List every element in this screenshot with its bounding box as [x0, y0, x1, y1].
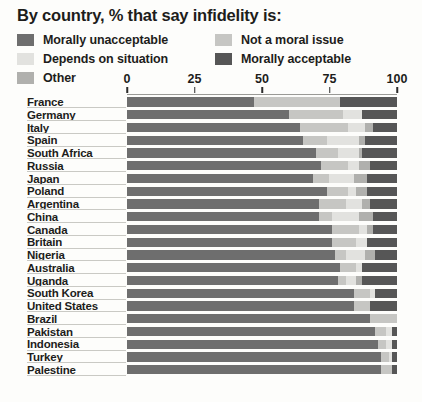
bar-segment-unacceptable[interactable]	[127, 187, 327, 196]
bar-segment-not_moral[interactable]	[319, 212, 333, 221]
bar-segment-depends[interactable]	[346, 276, 357, 285]
bar-segment-depends[interactable]	[338, 148, 360, 157]
stacked-bar[interactable]	[127, 276, 397, 285]
bar-segment-acceptable[interactable]	[375, 289, 397, 298]
bar-segment-not_moral[interactable]	[381, 365, 392, 374]
bar-segment-not_moral[interactable]	[381, 352, 389, 361]
chart-row[interactable]: China	[0, 211, 422, 224]
chart-row[interactable]: Russia	[0, 160, 422, 173]
bar-segment-not_moral[interactable]	[370, 314, 397, 323]
chart-row[interactable]: Spain	[0, 134, 422, 147]
bar-segment-not_moral[interactable]	[375, 327, 386, 336]
bar-segment-depends[interactable]	[348, 161, 359, 170]
bar-segment-acceptable[interactable]	[373, 123, 397, 132]
bar-segment-unacceptable[interactable]	[127, 161, 321, 170]
bar-segment-acceptable[interactable]	[362, 276, 397, 285]
stacked-bar[interactable]	[127, 289, 397, 298]
bar-segment-unacceptable[interactable]	[127, 314, 370, 323]
stacked-bar[interactable]	[127, 199, 397, 208]
bar-segment-other[interactable]	[356, 187, 367, 196]
stacked-bar[interactable]	[127, 340, 397, 349]
bar-segment-other[interactable]	[362, 199, 370, 208]
stacked-bar[interactable]	[127, 314, 397, 323]
bar-segment-acceptable[interactable]	[340, 97, 397, 106]
bar-segment-acceptable[interactable]	[362, 263, 397, 272]
bar-segment-other[interactable]	[354, 174, 368, 183]
bar-segment-not_moral[interactable]	[340, 263, 356, 272]
bar-segment-acceptable[interactable]	[392, 365, 397, 374]
bar-segment-unacceptable[interactable]	[127, 110, 289, 119]
bar-segment-acceptable[interactable]	[375, 250, 397, 259]
bar-segment-unacceptable[interactable]	[127, 225, 332, 234]
bar-segment-not_moral[interactable]	[254, 97, 340, 106]
bar-segment-not_moral[interactable]	[319, 199, 346, 208]
bar-segment-other[interactable]	[359, 161, 370, 170]
stacked-bar[interactable]	[127, 174, 397, 183]
legend-item-acceptable[interactable]: Morally acceptable	[215, 50, 415, 68]
chart-row[interactable]: Pakistan	[0, 326, 422, 339]
bar-segment-not_moral[interactable]	[335, 250, 346, 259]
bar-segment-acceptable[interactable]	[392, 352, 397, 361]
bar-segment-unacceptable[interactable]	[127, 263, 340, 272]
bar-segment-depends[interactable]	[348, 123, 364, 132]
bar-segment-not_moral[interactable]	[338, 276, 346, 285]
bar-segment-acceptable[interactable]	[367, 238, 397, 247]
bar-segment-unacceptable[interactable]	[127, 340, 378, 349]
stacked-bar[interactable]	[127, 97, 397, 106]
bar-segment-other[interactable]	[365, 123, 373, 132]
stacked-bar[interactable]	[127, 238, 397, 247]
bar-segment-acceptable[interactable]	[362, 148, 397, 157]
bar-segment-not_moral[interactable]	[289, 110, 343, 119]
stacked-bar[interactable]	[127, 136, 397, 145]
chart-row[interactable]: Italy	[0, 122, 422, 135]
bar-segment-depends[interactable]	[359, 225, 367, 234]
bar-segment-depends[interactable]	[327, 136, 359, 145]
bar-segment-acceptable[interactable]	[392, 327, 397, 336]
stacked-bar[interactable]	[127, 301, 397, 310]
bar-segment-not_moral[interactable]	[327, 187, 349, 196]
bar-segment-unacceptable[interactable]	[127, 276, 338, 285]
bar-segment-acceptable[interactable]	[367, 187, 397, 196]
bar-segment-unacceptable[interactable]	[127, 301, 354, 310]
stacked-bar[interactable]	[127, 161, 397, 170]
bar-segment-not_moral[interactable]	[321, 161, 348, 170]
bar-segment-depends[interactable]	[343, 110, 362, 119]
chart-row[interactable]: Indonesia	[0, 338, 422, 351]
legend-item-not_moral[interactable]: Not a moral issue	[215, 31, 415, 49]
bar-segment-unacceptable[interactable]	[127, 238, 332, 247]
stacked-bar[interactable]	[127, 327, 397, 336]
bar-segment-not_moral[interactable]	[378, 340, 386, 349]
bar-segment-not_moral[interactable]	[332, 225, 359, 234]
chart-row[interactable]: Brazil	[0, 313, 422, 326]
bar-segment-not_moral[interactable]	[354, 301, 370, 310]
chart-row[interactable]: Nigeria	[0, 249, 422, 262]
bar-segment-unacceptable[interactable]	[127, 148, 316, 157]
bar-segment-unacceptable[interactable]	[127, 212, 319, 221]
legend-item-other[interactable]: Other	[17, 69, 217, 87]
bar-segment-depends[interactable]	[356, 238, 367, 247]
bar-segment-depends[interactable]	[346, 199, 362, 208]
bar-segment-unacceptable[interactable]	[127, 199, 319, 208]
bar-segment-unacceptable[interactable]	[127, 289, 354, 298]
bar-segment-acceptable[interactable]	[370, 161, 397, 170]
bar-segment-not_moral[interactable]	[303, 136, 327, 145]
stacked-bar[interactable]	[127, 123, 397, 132]
bar-segment-depends[interactable]	[329, 174, 353, 183]
bar-segment-acceptable[interactable]	[370, 199, 397, 208]
chart-row[interactable]: Australia	[0, 262, 422, 275]
chart-row[interactable]: South Africa	[0, 147, 422, 160]
chart-row[interactable]: Poland	[0, 185, 422, 198]
stacked-bar[interactable]	[127, 212, 397, 221]
chart-row[interactable]: Britain	[0, 236, 422, 249]
bar-segment-unacceptable[interactable]	[127, 123, 300, 132]
bar-segment-not_moral[interactable]	[316, 148, 338, 157]
bar-segment-other[interactable]	[359, 212, 373, 221]
bar-segment-acceptable[interactable]	[370, 301, 397, 310]
chart-row[interactable]: Argentina	[0, 198, 422, 211]
legend-item-depends[interactable]: Depends on situation	[17, 50, 217, 68]
bar-segment-acceptable[interactable]	[365, 136, 397, 145]
bar-segment-depends[interactable]	[332, 212, 359, 221]
bar-segment-unacceptable[interactable]	[127, 136, 303, 145]
bar-segment-unacceptable[interactable]	[127, 365, 381, 374]
bar-segment-unacceptable[interactable]	[127, 174, 313, 183]
